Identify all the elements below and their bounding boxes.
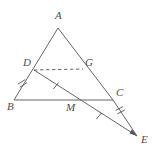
tick-mark-me	[96, 113, 101, 119]
segment-de	[34, 70, 137, 136]
vertex-label-m: M	[66, 102, 75, 113]
vertex-label-b: B	[7, 101, 14, 112]
vertex-label-d: D	[23, 57, 31, 68]
segment-ce	[113, 100, 137, 136]
segment-ab	[14, 28, 58, 100]
vertex-label-e: E	[141, 134, 148, 145]
segment-dg-dashed	[34, 69, 83, 70]
geometry-diagram-canvas: A D G B M C E	[0, 0, 157, 154]
tick-mark-dm	[53, 83, 58, 89]
vertex-label-c: C	[116, 87, 123, 98]
diagram-svg	[0, 0, 157, 154]
vertex-label-a: A	[55, 10, 62, 21]
vertex-label-g: G	[85, 57, 93, 68]
